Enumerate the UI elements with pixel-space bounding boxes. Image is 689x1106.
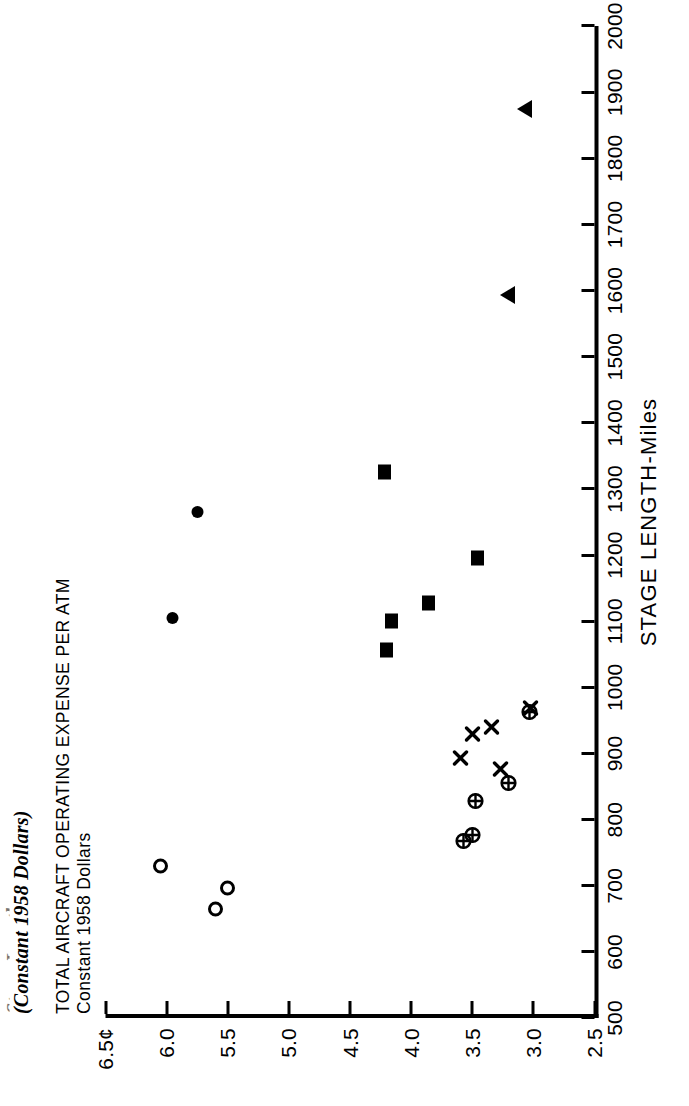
x-tick-500 [581,1017,594,1020]
y-tick-5.5 [226,1001,229,1014]
x-tick-label-700: 700 [602,868,626,904]
x-tick-label-1100: 1100 [602,598,626,644]
x-tick-1500 [581,355,594,358]
x-tick-1900 [581,91,594,94]
x-tick-label-600: 600 [602,934,626,970]
data-point-open-circle [220,880,235,895]
x-tick-label-900: 900 [602,736,626,772]
x-axis-line [594,26,598,1018]
x-tick-label-2000: 2000 [602,2,626,50]
figure-title-line-2: (Constant 1958 Dollars) [9,810,31,1014]
x-tick-700 [581,884,594,887]
y-tick-3.5 [470,1001,473,1014]
x-tick-800 [581,818,594,821]
x-tick-label-1700: 1700 [602,201,626,249]
x-tick-1000 [581,686,594,689]
y-axis-title-block: TOTAL AIRCRAFT OPERATING EXPENSE PER ATM… [52,578,95,1014]
rotated-figure-stage: Stage Length (Constant 1958 Dollars) TOT… [0,0,689,1106]
x-tick-label-1600: 1600 [602,267,626,315]
data-point-open-circle [208,901,223,916]
data-point-cross [463,725,481,743]
x-tick-label-1400: 1400 [602,399,626,447]
y-tick-2.5 [593,1001,596,1014]
x-tick-1200 [581,554,594,557]
x-tick-1600 [581,289,594,292]
y-axis-line [105,1014,598,1018]
x-tick-1800 [581,157,594,160]
y-tick-label-2.5: 2.5 [582,1028,606,1058]
x-tick-1400 [581,421,594,424]
x-axis-title: STAGE LENGTH-Miles [635,26,661,1018]
data-point-open-circle [153,858,168,873]
x-tick-label-1000: 1000 [602,664,626,712]
y-tick-label-5.5: 5.5 [215,1028,239,1058]
y-tick-label-4.5: 4.5 [338,1028,362,1058]
y-tick-label-6: 6.0 [154,1028,178,1058]
y-tick-5 [287,1001,290,1014]
x-tick-2000 [581,25,594,28]
x-tick-600 [581,950,594,953]
data-point-filled-square [377,465,390,480]
data-point-circle-cross [454,832,472,850]
data-point-filled-square [421,596,434,611]
data-point-filled-square [380,642,393,657]
x-tick-1300 [581,487,594,490]
figure-title-block: Stage Length (Constant 1958 Dollars) [2,810,31,1014]
data-point-filled-square [470,550,483,565]
y-tick-label-5: 5.0 [276,1028,300,1058]
x-tick-label-800: 800 [602,802,626,838]
data-point-filled-circle [191,506,203,518]
y-tick-label-6.5: 6.5¢ [93,1028,117,1070]
x-tick-label-1500: 1500 [602,333,626,381]
x-tick-label-1300: 1300 [602,465,626,513]
data-point-circle-cross [499,774,517,792]
y-tick-6 [165,1001,168,1014]
y-tick-label-3.5: 3.5 [460,1028,484,1058]
data-point-filled-square [385,614,398,629]
data-point-circle-cross [466,792,484,810]
figure-page: Stage Length (Constant 1958 Dollars) TOT… [0,0,689,1106]
data-point-triangle [517,100,532,118]
y-tick-label-3: 3.0 [521,1028,545,1058]
x-tick-1100 [581,620,594,623]
y-axis-title-line-2: Constant 1958 Dollars [73,578,94,1014]
data-point-circle-cross [520,703,538,721]
x-tick-label-1800: 1800 [602,135,626,183]
x-tick-1700 [581,223,594,226]
y-tick-label-4: 4.0 [399,1028,423,1058]
x-tick-label-1200: 1200 [602,531,626,579]
figure-title-line-1-clipped: Stage Length [2,810,9,1014]
data-point-cross [451,749,469,767]
y-tick-4 [409,1001,412,1014]
data-point-cross [482,718,500,736]
plot-area: 5006007008009001000110012001300140015001… [105,26,594,1018]
y-axis-title-line-1: TOTAL AIRCRAFT OPERATING EXPENSE PER ATM [52,578,73,1014]
y-tick-4.5 [348,1001,351,1014]
y-tick-3 [531,1001,534,1014]
x-tick-label-1900: 1900 [602,68,626,116]
y-tick-6.5 [104,1001,107,1014]
data-point-triangle [500,286,515,304]
x-tick-900 [581,752,594,755]
data-point-filled-circle [166,612,178,624]
